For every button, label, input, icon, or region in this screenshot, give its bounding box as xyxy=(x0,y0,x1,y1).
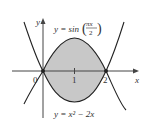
sine-label-denominator: 2 xyxy=(89,29,93,37)
sine-label-numerator: πx xyxy=(86,20,94,28)
parabola-label: y = x² − 2x xyxy=(53,109,94,119)
sine-label-paren-close: ) xyxy=(97,21,102,37)
tick-label-1: 1 xyxy=(72,75,77,85)
y-axis-label: y xyxy=(35,17,40,27)
sine-label: y = sin xyxy=(53,24,80,34)
tick-label-2: 2 xyxy=(103,75,108,85)
tick-label-0: 0 xyxy=(33,75,38,85)
x-axis-arrow-icon xyxy=(133,69,139,74)
x-axis-label: x xyxy=(134,75,139,85)
y-axis-arrow-icon xyxy=(41,18,46,24)
intersection-point-two xyxy=(104,69,108,73)
diagram-canvas: y x 0 1 2 y = sin ( πx 2 ) y = x² − 2x xyxy=(0,0,151,126)
intersection-point-origin xyxy=(41,69,45,73)
